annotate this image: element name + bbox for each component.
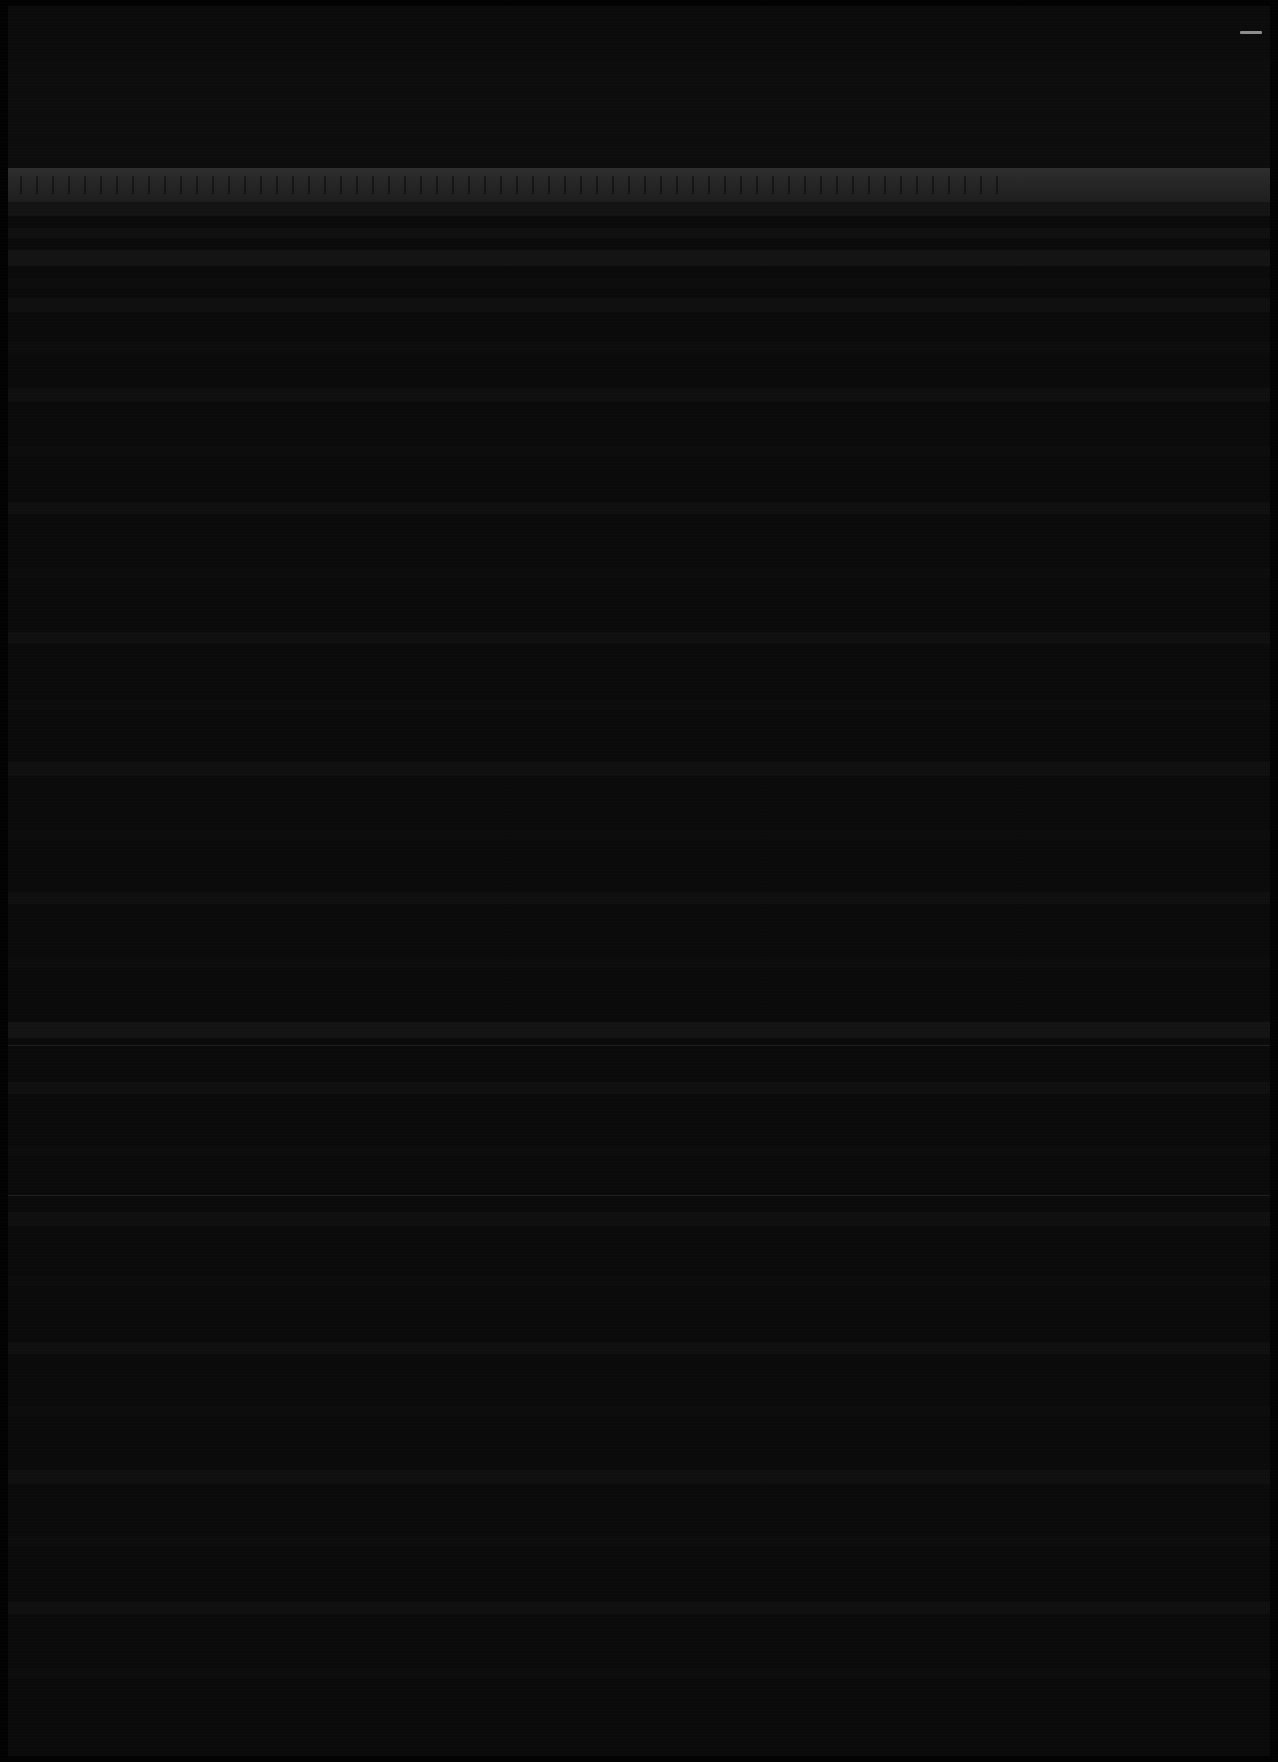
- text-line-band: [8, 228, 1270, 238]
- text-line-band: [8, 298, 1270, 312]
- toolbar-control[interactable]: [308, 176, 310, 194]
- toolbar-control[interactable]: [628, 176, 630, 194]
- text-line-band: [8, 342, 1270, 354]
- toolbar-control[interactable]: [116, 176, 118, 194]
- toolbar-control[interactable]: [148, 176, 150, 194]
- text-line-band: [8, 388, 1270, 402]
- toolbar-control[interactable]: [356, 176, 358, 194]
- toolbar-control[interactable]: [788, 176, 790, 194]
- text-line-band: [8, 502, 1270, 514]
- text-line-band: [8, 1470, 1270, 1484]
- toolbar-control[interactable]: [580, 176, 582, 194]
- toolbar-control[interactable]: [692, 176, 694, 194]
- toolbar-control[interactable]: [420, 176, 422, 194]
- text-line-band: [8, 446, 1270, 456]
- upper-content-block: [8, 62, 1270, 168]
- toolbar-control[interactable]: [868, 176, 870, 194]
- toolbar-control[interactable]: [916, 176, 918, 194]
- toolbar-control[interactable]: [324, 176, 326, 194]
- text-line-band: [8, 1082, 1270, 1094]
- divider-lower: [8, 1195, 1270, 1196]
- toolbar-control[interactable]: [292, 176, 294, 194]
- toolbar-control[interactable]: [260, 176, 262, 194]
- toolbar-control[interactable]: [612, 176, 614, 194]
- text-line-band: [8, 1536, 1270, 1546]
- toolbar-control[interactable]: [484, 176, 486, 194]
- divider-upper: [8, 1045, 1270, 1046]
- toolbar-control[interactable]: [68, 176, 70, 194]
- window-edge-bottom: [0, 1756, 1278, 1762]
- toolbar-control[interactable]: [948, 176, 950, 194]
- toolbar-control[interactable]: [452, 176, 454, 194]
- toolbar-control[interactable]: [276, 176, 278, 194]
- document-content-area[interactable]: [8, 202, 1270, 1756]
- toolbar-control[interactable]: [388, 176, 390, 194]
- text-line-band: [8, 762, 1270, 776]
- screen-root: [0, 0, 1278, 1762]
- text-line-band: [8, 250, 1270, 266]
- toolbar-control[interactable]: [884, 176, 886, 194]
- toolbar-control[interactable]: [900, 176, 902, 194]
- text-line-band: [8, 1146, 1270, 1156]
- toolbar-control[interactable]: [772, 176, 774, 194]
- text-line-band: [8, 1276, 1270, 1286]
- toolbar-control[interactable]: [404, 176, 406, 194]
- toolbar-control[interactable]: [676, 176, 678, 194]
- toolbar-control[interactable]: [436, 176, 438, 194]
- text-line-band: [8, 830, 1270, 840]
- toolbar-control[interactable]: [980, 176, 982, 194]
- toolbar-control[interactable]: [340, 176, 342, 194]
- toolbar-control[interactable]: [964, 176, 966, 194]
- toolbar-control[interactable]: [244, 176, 246, 194]
- toolbar-control[interactable]: [548, 176, 550, 194]
- toolbar-control[interactable]: [644, 176, 646, 194]
- toolbar-control[interactable]: [212, 176, 214, 194]
- window-edge-left: [0, 0, 8, 1762]
- text-line-band: [8, 568, 1270, 578]
- toolbar-control[interactable]: [996, 176, 998, 194]
- window-edge-right: [1270, 0, 1278, 1762]
- text-line-band: [8, 632, 1270, 644]
- toolbar-control[interactable]: [532, 176, 534, 194]
- main-toolbar[interactable]: [8, 168, 1270, 202]
- toolbar-control[interactable]: [932, 176, 934, 194]
- toolbar-control[interactable]: [724, 176, 726, 194]
- text-line-band: [8, 958, 1270, 968]
- toolbar-control[interactable]: [180, 176, 182, 194]
- toolbar-control[interactable]: [836, 176, 838, 194]
- toolbar-control[interactable]: [564, 176, 566, 194]
- text-line-band: [8, 1342, 1270, 1354]
- toolbar-control[interactable]: [820, 176, 822, 194]
- toolbar-control[interactable]: [516, 176, 518, 194]
- text-line-band: [8, 1406, 1270, 1416]
- toolbar-control[interactable]: [740, 176, 742, 194]
- toolbar-control[interactable]: [132, 176, 134, 194]
- toolbar-control[interactable]: [84, 176, 86, 194]
- toolbar-control[interactable]: [372, 176, 374, 194]
- toolbar-control[interactable]: [468, 176, 470, 194]
- toolbar-control[interactable]: [596, 176, 598, 194]
- text-line-band: [8, 700, 1270, 710]
- toolbar-control[interactable]: [36, 176, 38, 194]
- toolbar-control[interactable]: [228, 176, 230, 194]
- text-line-band: [8, 1668, 1270, 1678]
- toolbar-control[interactable]: [164, 176, 166, 194]
- text-line-band: [8, 1212, 1270, 1226]
- toolbar-control[interactable]: [500, 176, 502, 194]
- toolbar-control[interactable]: [196, 176, 198, 194]
- text-line-band: [8, 1602, 1270, 1614]
- window-titlebar[interactable]: [8, 6, 1270, 62]
- text-line-band: [8, 892, 1270, 904]
- toolbar-control[interactable]: [100, 176, 102, 194]
- text-line-band: [8, 202, 1270, 216]
- text-line-band: [8, 1022, 1270, 1038]
- toolbar-control[interactable]: [52, 176, 54, 194]
- text-line-band: [8, 278, 1270, 288]
- toolbar-control[interactable]: [756, 176, 758, 194]
- toolbar-control[interactable]: [852, 176, 854, 194]
- toolbar-control[interactable]: [804, 176, 806, 194]
- toolbar-control[interactable]: [708, 176, 710, 194]
- toolbar-control[interactable]: [660, 176, 662, 194]
- minimize-icon[interactable]: [1240, 31, 1262, 34]
- toolbar-control[interactable]: [20, 176, 22, 194]
